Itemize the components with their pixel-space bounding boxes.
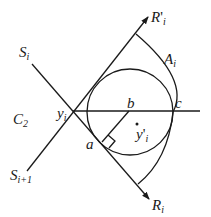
label-c: c [175, 96, 182, 111]
label-s-i: Si [19, 45, 29, 62]
radius-b-to-a [102, 111, 129, 142]
label-y-prime-i: y'i [136, 127, 148, 144]
label-a-i: Ai [164, 52, 176, 69]
label-c-2: C2 [13, 112, 28, 129]
inscribed-circle [87, 69, 173, 155]
label-a: a [86, 137, 94, 152]
label-r-i: Ri [152, 198, 164, 215]
label-y-i: yi [57, 106, 66, 123]
label-b: b [127, 96, 135, 111]
right-angle-marker [108, 135, 115, 148]
geometry-diagram: Si Si+1 C2 yi y'i R'i Ri Ai a b c [0, 0, 211, 217]
line-si-to-ri [32, 64, 149, 199]
label-s-i-plus-1: Si+1 [10, 168, 32, 185]
label-r-prime-i: R'i [151, 10, 166, 27]
